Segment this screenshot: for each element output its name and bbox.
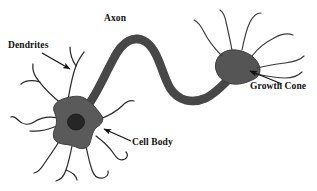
filopodium-4 — [252, 34, 293, 56]
cell-body-leader-arrow — [104, 129, 131, 141]
dendrite-tall-branch — [70, 47, 76, 66]
filopodium-2 — [220, 10, 232, 50]
filopodium-5 — [257, 56, 304, 68]
filopodium-3 — [242, 13, 261, 50]
dendrites-leader-arrow — [42, 53, 70, 69]
dendrite-lower-left — [34, 140, 60, 173]
dendrite-lower-center — [56, 146, 72, 181]
cell-body-shape — [53, 96, 102, 148]
dendrite-lower-right — [86, 146, 108, 178]
dendrite-right-lateral — [98, 101, 134, 120]
label-dendrites: Dendrites — [8, 41, 48, 51]
axon-shape — [86, 39, 226, 108]
dendrite-upper-left-branch — [21, 81, 40, 84]
label-axon: Axon — [104, 14, 126, 24]
filopodium-6 — [256, 72, 302, 78]
label-growth-cone: Growth Cone — [250, 82, 306, 92]
dendrite-right-lower — [96, 136, 127, 160]
dendrite-left-wavy — [11, 117, 58, 125]
nucleus-shape — [68, 114, 85, 130]
dendrite-lower-center-hook — [66, 170, 77, 180]
filopodium-1 — [194, 20, 222, 56]
dendrite-tall-center — [68, 52, 84, 100]
label-cell-body: Cell Body — [132, 138, 173, 148]
dendrite-left-lower — [30, 126, 57, 131]
dendrite-upper-left — [33, 64, 62, 104]
neuron-diagram: Dendrites Axon Growth Cone Cell Body — [0, 0, 317, 191]
neuron-illustration — [0, 0, 317, 191]
